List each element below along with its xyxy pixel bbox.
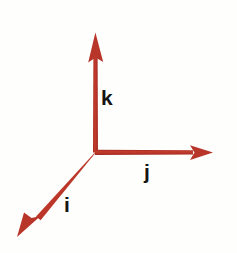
j-axis-label: j	[144, 161, 150, 182]
j-axis-vector	[95, 145, 213, 160]
j-axis-shaft	[95, 150, 193, 155]
j-axis-arrowhead	[190, 145, 213, 160]
axes-canvas	[0, 0, 237, 253]
i-axis-label: i	[64, 194, 70, 215]
i-axis-vector	[17, 150, 98, 237]
k-axis-label: k	[101, 87, 113, 108]
k-axis-shaft	[93, 56, 98, 153]
vector-diagram: k j i	[0, 0, 237, 253]
